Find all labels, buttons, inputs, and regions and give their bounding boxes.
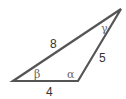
side-label-5: 5 bbox=[99, 51, 106, 65]
side-label-4: 4 bbox=[46, 85, 53, 99]
angle-label-alpha: α bbox=[67, 68, 75, 81]
triangle-diagram: 8 5 4 β α γ bbox=[0, 0, 126, 99]
angle-label-gamma: γ bbox=[101, 22, 108, 35]
side-label-8: 8 bbox=[50, 37, 57, 51]
angle-label-beta: β bbox=[34, 68, 40, 81]
